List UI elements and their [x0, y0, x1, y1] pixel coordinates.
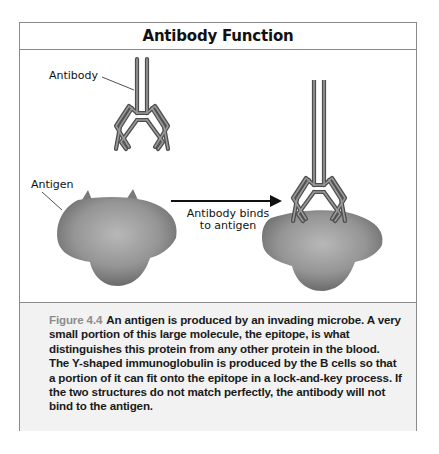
title-bar: Antibody Function [20, 23, 416, 50]
binding-arrow [171, 195, 282, 207]
antibody-label: Antibody [49, 69, 99, 82]
caption-paragraph: Figure 4.4An antigen is produced by an i… [49, 313, 402, 414]
figure-illustration: Antibody Antigen Antibody binds to antig… [20, 50, 416, 302]
figure-frame: Antibody Function [19, 22, 417, 431]
arrow-label-line2: to antigen [200, 219, 256, 232]
figure-title: Antibody Function [142, 27, 293, 45]
antigen-leader-line [42, 192, 62, 210]
antigen-left [57, 189, 176, 286]
antibody-bound [293, 131, 345, 221]
antibody-leader-line [102, 77, 134, 90]
antigen-bound [262, 210, 383, 291]
diagram-svg: Antibody Antigen Antibody binds to antig… [20, 50, 418, 302]
antigen-label: Antigen [31, 178, 74, 191]
figure-caption: Figure 4.4An antigen is produced by an i… [20, 302, 416, 431]
antibody-free [116, 59, 168, 149]
caption-text: An antigen is produced by an invading mi… [49, 313, 402, 412]
figure-number: Figure 4.4 [49, 313, 102, 326]
